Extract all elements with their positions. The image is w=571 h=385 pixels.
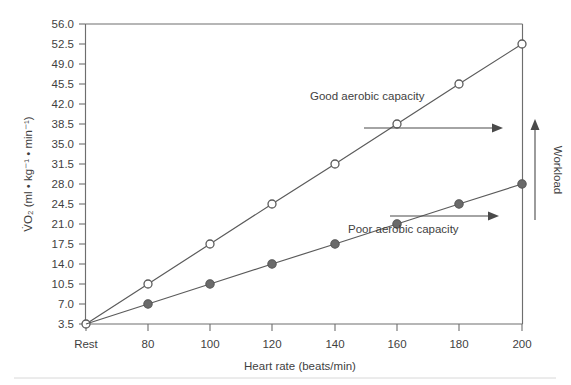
data-point-good-100	[206, 240, 214, 248]
y-tick-label-17.5: 17.5	[52, 238, 74, 250]
y-tick-label-42.0: 42.0	[52, 98, 74, 110]
vo2-heart-rate-line-chart: 3.5 7.0 10.5 14.0 17.5 21.0 24.5 28.0 31…	[0, 0, 571, 385]
data-point-good-140	[331, 160, 339, 168]
y-tick-label-10.5: 10.5	[52, 278, 74, 290]
data-point-poor-80	[144, 300, 152, 308]
poor-aerobic-capacity-label: Poor aerobic capacity	[348, 223, 459, 235]
y-tick-label-56.0: 56.0	[52, 18, 74, 30]
data-point-poor-120	[268, 260, 276, 268]
good-aerobic-capacity-label: Good aerobic capacity	[310, 90, 425, 102]
chart-figure: 3.5 7.0 10.5 14.0 17.5 21.0 24.5 28.0 31…	[0, 0, 571, 385]
x-tick-label-80: 80	[142, 338, 155, 350]
data-point-good-160	[393, 120, 401, 128]
x-tick-label-160: 160	[387, 338, 406, 350]
x-axis-title: Heart rate (beats/min)	[244, 360, 356, 372]
x-tick-label-140: 140	[325, 338, 344, 350]
x-tick-label-200: 200	[512, 338, 531, 350]
y-tick-label-45.5: 45.5	[52, 78, 74, 90]
y-tick-label-31.5: 31.5	[52, 158, 74, 170]
data-point-good-80	[144, 280, 152, 288]
y-tick-label-28.0: 28.0	[52, 178, 74, 190]
y-tick-label-14.0: 14.0	[52, 258, 74, 270]
data-point-poor-100	[206, 280, 214, 288]
data-point-good-200	[518, 40, 526, 48]
data-point-poor-180	[455, 200, 463, 208]
x-tick-label-120: 120	[262, 338, 281, 350]
y-axis-title: V̇O₂ (ml • kg⁻¹ • min⁻¹)	[22, 116, 34, 231]
workload-label: Workload	[552, 146, 564, 194]
data-point-good-120	[268, 200, 276, 208]
y-tick-label-35.0: 35.0	[52, 138, 74, 150]
y-tick-label-7.0: 7.0	[58, 298, 74, 310]
data-point-poor-200	[518, 180, 526, 188]
y-tick-label-38.5: 38.5	[52, 118, 74, 130]
y-tick-label-21.0: 21.0	[52, 218, 74, 230]
y-tick-label-3.5: 3.5	[58, 318, 74, 330]
y-tick-label-49.0: 49.0	[52, 58, 74, 70]
y-tick-label-24.5: 24.5	[52, 198, 74, 210]
data-point-poor-140	[331, 240, 339, 248]
data-point-good-180	[455, 80, 463, 88]
x-tick-label-100: 100	[200, 338, 219, 350]
x-tick-label-180: 180	[449, 338, 468, 350]
y-tick-label-52.5: 52.5	[52, 38, 74, 50]
x-tick-label-rest: Rest	[74, 338, 98, 350]
